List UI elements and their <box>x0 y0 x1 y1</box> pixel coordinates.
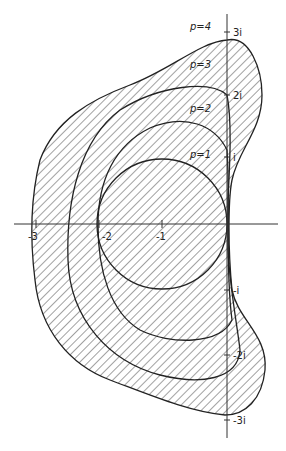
svg-text:-2: -2 <box>102 231 112 242</box>
svg-text:-3i: -3i <box>233 415 246 426</box>
stability-diagram: -3 -2 -1 3i 2i i -i -2i -3i p=4 p=3 p=2 … <box>0 0 286 451</box>
svg-text:-1: -1 <box>156 231 166 242</box>
label-p3: p=3 <box>189 59 211 70</box>
label-p2: p=2 <box>189 103 211 114</box>
svg-text:-2i: -2i <box>233 350 246 361</box>
svg-text:-i: -i <box>233 285 239 296</box>
label-p1: p=1 <box>189 149 211 160</box>
label-p4: p=4 <box>189 21 211 32</box>
svg-text:-3: -3 <box>28 231 38 242</box>
svg-text:3i: 3i <box>233 27 242 38</box>
svg-text:2i: 2i <box>233 90 242 101</box>
svg-text:i: i <box>233 152 236 163</box>
